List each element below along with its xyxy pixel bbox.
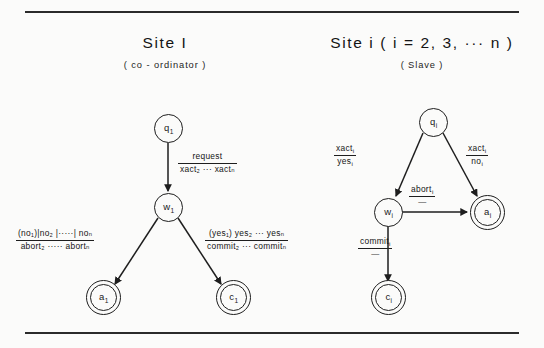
final-state-node-ci[interactable]: ci — [375, 284, 402, 311]
final-state-node-ci-label: ci — [385, 292, 391, 302]
edge-label-qi-wi: xacti yesi — [334, 144, 356, 166]
edge-label-w1-a1-denominator: abort₂ ····· abortₙ — [16, 240, 94, 252]
final-state-node-ai-label: ai — [484, 207, 491, 217]
figure-container: Site I ( co - ordinator ) q1 w1 a1 — [0, 0, 544, 348]
state-node-q1[interactable]: q1 — [154, 114, 183, 143]
panel-title-site-i: Site i ( i = 2, 3, ··· n ) — [300, 34, 544, 52]
final-state-node-a1[interactable]: a1 — [90, 284, 117, 311]
edge-label-w1-c1-denominator: commit₂ ··· commitₙ — [205, 240, 288, 252]
edge-label-w1-a1: (no₁)|no₂ |·····| noₙ abort₂ ····· abort… — [16, 229, 94, 251]
edge-label-wi-ci-denominator: — — [358, 248, 392, 257]
edge-label-wi-ai: aborti — — [409, 185, 435, 205]
final-state-node-c1[interactable]: c1 — [220, 284, 247, 311]
edge-lines-layer — [0, 0, 544, 348]
state-node-wi[interactable]: wi — [374, 198, 403, 227]
edge-label-wi-ci-numerator: commiti — [358, 237, 392, 248]
panel-subtitle-site-i: ( Slave ) — [300, 60, 544, 70]
edge-label-w1-c1: (yes₁) yes₂ ··· yesₙ commit₂ ··· commitₙ — [205, 229, 288, 251]
edge-label-w1-a1-numerator: (no₁)|no₂ |·····| noₙ — [16, 229, 94, 240]
state-node-qi[interactable]: qi — [419, 108, 448, 137]
edge-label-qi-ai-denominator: noi — [466, 155, 488, 167]
state-node-wi-label: wi — [384, 207, 392, 217]
edge-label-qi-ai: xacti noi — [466, 144, 488, 166]
edge-label-q1-w1-numerator: request — [178, 152, 237, 163]
state-node-qi-label: qi — [430, 117, 437, 127]
edge-label-q1-w1-denominator: xact₂ ··· xactₙ — [178, 163, 237, 175]
edge-label-q1-w1: request xact₂ ··· xactₙ — [178, 152, 237, 174]
final-state-node-a1-label: a1 — [99, 292, 108, 302]
final-state-node-c1-label: c1 — [229, 292, 237, 302]
state-node-q1-label: q1 — [164, 123, 173, 133]
edge-label-wi-ai-numerator: aborti — [409, 185, 435, 196]
edge-label-qi-ai-numerator: xacti — [466, 144, 488, 155]
arrow-w1-a1 — [115, 218, 158, 284]
edge-label-wi-ci: commiti — — [358, 237, 392, 257]
edge-label-w1-c1-numerator: (yes₁) yes₂ ··· yesₙ — [205, 229, 288, 240]
edge-label-wi-ai-denominator: — — [409, 196, 435, 205]
final-state-node-ai[interactable]: ai — [474, 199, 501, 226]
state-node-w1[interactable]: w1 — [154, 193, 183, 222]
edge-label-qi-wi-numerator: xacti — [334, 144, 356, 155]
state-node-w1-label: w1 — [163, 202, 174, 212]
edge-label-qi-wi-denominator: yesi — [334, 155, 356, 167]
